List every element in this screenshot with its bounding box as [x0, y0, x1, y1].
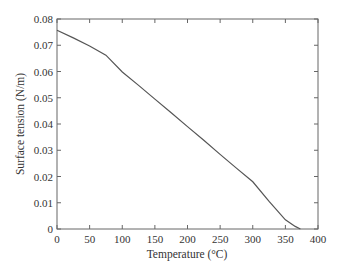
- x-tick-label: 200: [179, 233, 196, 245]
- y-axis-tick-labels: 00.010.020.030.040.050.060.070.08: [34, 13, 54, 235]
- y-axis-ticks: [57, 19, 318, 229]
- x-axis-tick-labels: 050100150200250300350400: [54, 233, 327, 245]
- y-tick-label: 0.06: [34, 66, 54, 78]
- surface-tension-curve: [57, 30, 300, 229]
- y-tick-label: 0.03: [34, 144, 54, 156]
- y-axis-label: Surface tension (N/m): [14, 73, 27, 175]
- y-tick-label: 0.05: [34, 92, 54, 104]
- x-tick-label: 300: [245, 233, 262, 245]
- x-tick-label: 50: [84, 233, 96, 245]
- x-axis-label: Temperature (°C): [147, 248, 228, 261]
- y-tick-label: 0: [48, 223, 54, 235]
- chart: 050100150200250300350400 00.010.020.030.…: [0, 0, 342, 274]
- y-tick-label: 0.04: [34, 118, 54, 130]
- y-tick-label: 0.07: [34, 39, 54, 51]
- y-tick-label: 0.02: [34, 171, 53, 183]
- x-tick-label: 400: [310, 233, 327, 245]
- x-tick-label: 350: [277, 233, 294, 245]
- x-tick-label: 100: [114, 233, 131, 245]
- y-tick-label: 0.01: [34, 197, 53, 209]
- y-tick-label: 0.08: [34, 13, 54, 25]
- plot-frame: [57, 19, 318, 229]
- x-tick-label: 250: [212, 233, 229, 245]
- x-axis-ticks: [57, 19, 318, 229]
- x-tick-label: 0: [54, 233, 60, 245]
- x-tick-label: 150: [147, 233, 164, 245]
